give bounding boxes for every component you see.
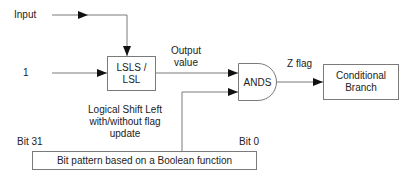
z-flag-label: Z flag [287,58,312,70]
bit-0-label: Bit 0 [239,136,259,148]
shift-description-line3: update [79,128,171,140]
bit-pattern-box: Bit pattern based on a Boolean function [32,151,257,170]
lsls-block: LSLS / LSL [107,56,156,91]
bit-31-label: Bit 31 [17,136,43,148]
output-label-line1: Output [166,45,206,57]
input-label: Input [14,9,36,21]
shift-description: Logical Shift Left with/without flag upd… [79,104,171,140]
branch-label-line2: Branch [345,82,377,94]
shift-description-line2: with/without flag [79,116,171,128]
conditional-branch-block: Conditional Branch [323,64,399,100]
ands-label: ANDS [244,77,272,88]
bit-pattern-label: Bit pattern based on a Boolean function [57,155,232,167]
output-value-label: Output value [166,45,206,69]
lsls-label: LSLS / [116,62,146,74]
branch-label-line1: Conditional [336,70,386,82]
output-label-line2: value [166,57,206,69]
constant-one-label: 1 [23,67,29,79]
ands-gate: ANDS [238,63,277,101]
shift-description-line1: Logical Shift Left [79,104,171,116]
lsl-label: LSL [123,74,141,86]
